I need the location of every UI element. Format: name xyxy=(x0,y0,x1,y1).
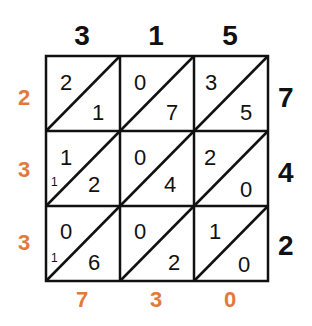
cell-tens: 0 xyxy=(60,219,72,244)
carry-digit: 1 xyxy=(51,175,58,189)
cell-ones: 0 xyxy=(238,252,250,277)
cell-ones: 5 xyxy=(240,100,252,125)
cell-ones: 1 xyxy=(92,100,104,125)
cell-tens: 0 xyxy=(134,219,146,244)
carry-digit: 1 xyxy=(51,251,58,265)
cell-ones: 7 xyxy=(166,100,178,125)
cell-tens: 2 xyxy=(60,70,72,95)
cell-ones: 4 xyxy=(164,172,176,197)
lattice-grid: 2 1 0 7 3 5 1 2 0 4 2 0 0 6 0 2 1 0 1 1 xyxy=(0,0,312,326)
cell-tens: 0 xyxy=(134,70,146,95)
cell-tens: 0 xyxy=(134,145,146,170)
cell-ones: 0 xyxy=(240,177,252,202)
cell-ones: 2 xyxy=(168,250,180,275)
cell-tens: 2 xyxy=(204,145,216,170)
cell-ones: 6 xyxy=(88,250,100,275)
cell-ones: 2 xyxy=(88,172,100,197)
cell-tens: 1 xyxy=(209,219,221,244)
cell-tens: 1 xyxy=(60,145,72,170)
cell-tens: 3 xyxy=(205,70,217,95)
